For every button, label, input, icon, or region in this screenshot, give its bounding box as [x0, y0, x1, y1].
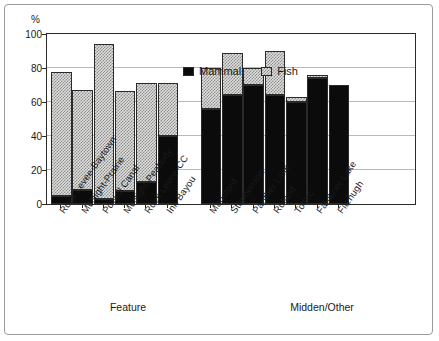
y-tick-label-20: 20 [16, 165, 42, 176]
group-label-feature: Feature [43, 301, 213, 313]
y-tick-label-80: 80 [16, 63, 42, 74]
bar-segment-fish [158, 83, 179, 136]
bar-segment-mammal [201, 109, 222, 204]
bar-segment-fish [51, 72, 72, 195]
legend-label-fish: Fish [277, 65, 298, 77]
legend-item-fish: Fish [261, 65, 298, 77]
bar-mansford[interactable] [201, 68, 222, 204]
legend: Mammal Fish [183, 65, 298, 77]
y-axis: 020406080100 [5, 33, 42, 205]
figure-frame: % 020406080100 Mammal Fish Rock Levee-Ba… [4, 4, 433, 335]
legend-swatch-mammal [183, 67, 194, 76]
y-tick-label-100: 100 [16, 29, 42, 40]
y-tick-label-60: 60 [16, 97, 42, 108]
bar-segment-mammal [307, 78, 328, 204]
bar-segment-fish [307, 75, 328, 78]
group-label-midden: Midden/Other [237, 301, 407, 313]
legend-item-mammal: Mammal [183, 65, 241, 77]
bar-faulkner-lake[interactable] [307, 75, 328, 204]
legend-swatch-fish [261, 67, 272, 76]
bar-segment-fish [286, 97, 307, 102]
y-tick-label-40: 40 [16, 131, 42, 142]
bar-rock-levee-baytown[interactable] [51, 72, 72, 204]
legend-label-mammal: Mammal [199, 65, 241, 77]
y-axis-unit-label: % [31, 14, 40, 25]
y-tick-label-0: 0 [16, 199, 42, 210]
